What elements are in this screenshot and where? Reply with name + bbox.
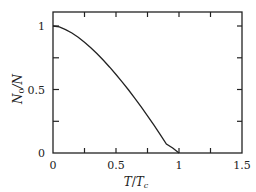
x-axis-label: T/Tc (124, 175, 149, 190)
y-tick-label-1: 1 (38, 20, 45, 33)
x-tick-label-1: 1 (176, 159, 183, 172)
y-axis-label: N0/N (11, 73, 26, 105)
x-tick-label-0-5: 0.5 (107, 159, 125, 172)
x-tick-label-1-5: 1.5 (233, 159, 251, 172)
y-tick-label-0-5: 0.5 (28, 84, 46, 97)
x-ticks-top (85, 12, 211, 17)
y-ticks-right (237, 26, 242, 121)
plot-frame (53, 12, 242, 153)
x-ticks-bottom (85, 148, 211, 153)
y-tick-label-0: 0 (38, 147, 45, 160)
y-ticks-left (53, 26, 59, 121)
x-tick-label-0: 0 (50, 159, 57, 172)
chart: 1 0.5 0 0 0.5 1 1.5 T/Tc N0/N (0, 0, 256, 192)
condensate-curve (53, 26, 179, 153)
